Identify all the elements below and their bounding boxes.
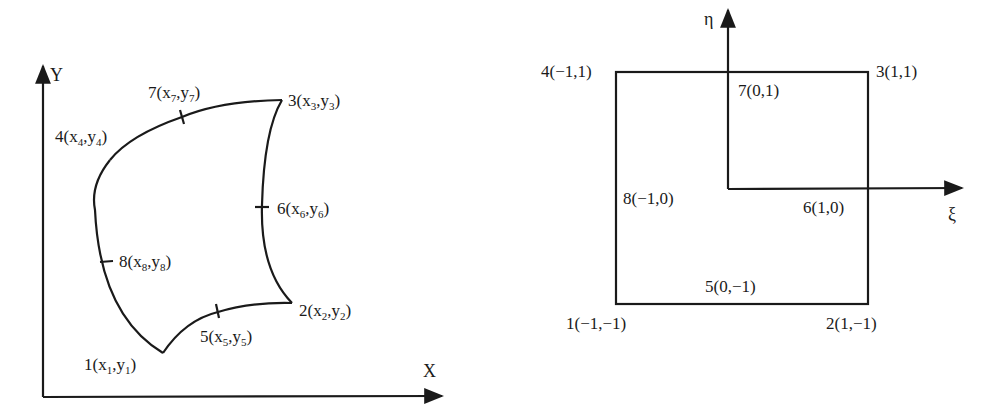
node-5-tick — [216, 304, 219, 318]
xi-axis — [728, 188, 962, 189]
curved-quad-element — [94, 100, 292, 353]
reference-node-label-8: 8(−1,0) — [623, 190, 674, 207]
physical-node-label-4: 4(x4,y4) — [55, 128, 107, 145]
reference-node-label-1: 1(−1,−1) — [566, 315, 626, 332]
x-axis — [43, 396, 442, 397]
node-8-tick — [100, 261, 113, 262]
y-axis-label: Y — [50, 66, 63, 84]
physical-node-label-2: 2(x2,y2) — [299, 302, 351, 319]
x-axis-label: X — [423, 362, 436, 380]
reference-node-label-2: 2(1,−1) — [826, 315, 877, 332]
xi-axis-label: ξ — [948, 205, 956, 223]
reference-node-label-5: 5(0,−1) — [705, 278, 756, 295]
reference-node-label-6: 6(1,0) — [803, 199, 844, 216]
reference-node-label-4: 4(−1,1) — [541, 63, 592, 80]
physical-node-label-3: 3(x3,y3) — [288, 92, 340, 109]
physical-node-label-7: 7(x7,y7) — [148, 84, 200, 101]
physical-node-label-6: 6(x6,y6) — [277, 200, 329, 217]
physical-node-label-8: 8(x8,y8) — [119, 253, 171, 270]
edge-top — [110, 100, 282, 160]
reference-square — [616, 10, 962, 304]
reference-node-label-3: 3(1,1) — [876, 63, 917, 80]
eta-axis-label: η — [704, 10, 713, 28]
reference-node-label-7: 7(0,1) — [738, 82, 779, 99]
physical-node-label-5: 5(x5,y5) — [200, 328, 252, 345]
physical-node-label-1: 1(x1,y1) — [84, 356, 136, 373]
